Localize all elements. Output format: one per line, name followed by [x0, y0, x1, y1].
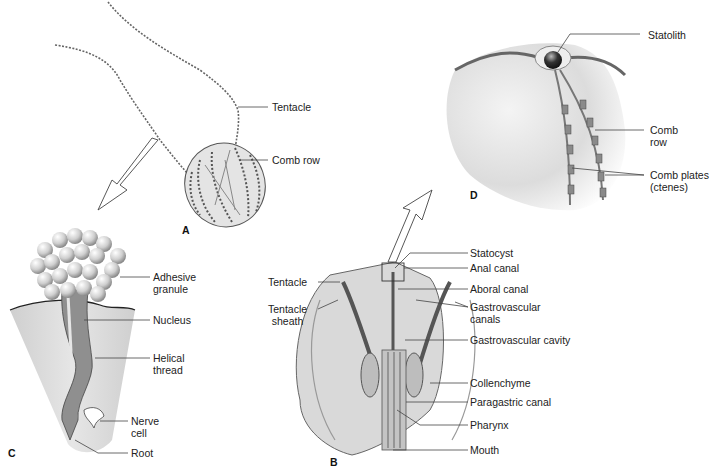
panel-c-drawing [10, 228, 150, 453]
label-gastrovascular-cavity: Gastrovascular cavity [470, 334, 570, 346]
label-collenchyme: Collenchyme [470, 377, 531, 389]
label-statocyst: Statocyst [470, 247, 513, 259]
label-nucleus: Nucleus [153, 314, 191, 326]
panel-letter-d: D [470, 189, 478, 201]
ctenophore-illustration [0, 0, 716, 474]
panel-letter-b: B [330, 456, 338, 468]
label-comb-plates: Comb plates (ctenes) [650, 169, 709, 193]
label-tentacle-sheath-line1: Tentacle [268, 303, 307, 315]
label-aboral-canal: Aboral canal [470, 283, 528, 295]
label-nerve-cell-line2: cell [131, 427, 159, 439]
label-nerve-cell-line1: Nerve [131, 415, 159, 427]
label-nerve-cell: Nerve cell [131, 415, 159, 439]
label-comb-plates-line1: Comb plates [650, 169, 709, 181]
panel-letter-a: A [182, 224, 190, 236]
label-gastrovascular-canals: Gastrovascular canals [470, 301, 541, 325]
label-root: Root [131, 447, 153, 459]
label-pharynx: Pharynx [470, 419, 509, 431]
label-anal-canal: Anal canal [470, 262, 519, 274]
label-comb-row-a: Comb row [272, 154, 320, 166]
label-helical-thread-line2: thread [153, 364, 185, 376]
panel-d-drawing [447, 34, 644, 210]
label-helical-thread-line1: Helical [153, 352, 185, 364]
label-paragastric-canal: Paragastric canal [470, 396, 551, 408]
label-comb-row-d-line1: Comb [650, 124, 678, 136]
label-adhesive-granule-line1: Adhesive [153, 271, 196, 283]
label-adhesive-granule-line2: granule [153, 283, 196, 295]
panel-a-drawing [55, 2, 277, 238]
label-tentacle-sheath-line2: sheath [268, 315, 307, 327]
label-gastrovascular-canals-line2: canals [470, 313, 541, 325]
label-statolith: Statolith [648, 29, 686, 41]
panel-letter-c: C [8, 447, 16, 459]
label-helical-thread: Helical thread [153, 352, 185, 376]
label-comb-row-d: Comb row [650, 124, 678, 148]
label-tentacle-a: Tentacle [272, 101, 311, 113]
label-comb-plates-line2: (ctenes) [650, 181, 709, 193]
label-tentacle-b: Tentacle [268, 276, 307, 288]
label-tentacle-sheath: Tentacle sheath [268, 303, 307, 327]
label-gastrovascular-canals-line1: Gastrovascular [470, 301, 541, 313]
panel-b-drawing [296, 190, 475, 455]
label-adhesive-granule: Adhesive granule [153, 271, 196, 295]
adhesive-granule-cluster [30, 228, 126, 302]
label-comb-row-d-line2: row [650, 136, 678, 148]
label-mouth: Mouth [470, 444, 499, 456]
